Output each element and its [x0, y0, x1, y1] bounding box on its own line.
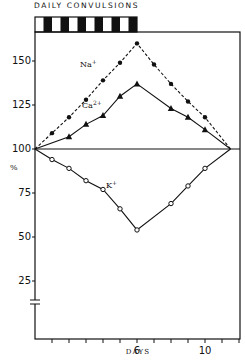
y-tick-label: 75 [18, 187, 31, 198]
marker-ca2- [185, 114, 191, 120]
convulsion-bar-segment [78, 17, 87, 32]
marker-na- [101, 78, 105, 82]
marker-ca2- [168, 105, 174, 111]
marker-k- [101, 187, 105, 191]
y-tick-label: 150 [12, 55, 31, 66]
marker-ca2- [83, 121, 89, 127]
marker-k- [186, 184, 190, 188]
marker-na- [169, 82, 173, 86]
marker-k- [203, 166, 207, 170]
series-label-na-: Na+ [80, 58, 97, 69]
marker-na- [203, 115, 207, 119]
marker-k- [50, 157, 54, 161]
convulsion-bar-segment [61, 17, 70, 32]
y-tick-label: 125 [12, 99, 31, 110]
ion-concentration-chart: 150125100755025%610DAYSNa+Ca2+K+ [0, 0, 245, 360]
y-tick-label: 25 [18, 275, 31, 286]
marker-na- [152, 62, 156, 66]
marker-k- [169, 201, 173, 205]
marker-na- [67, 115, 71, 119]
convulsion-bar-segment [129, 17, 138, 32]
series-line-na- [35, 43, 231, 149]
marker-na- [50, 131, 54, 135]
marker-na- [186, 99, 190, 103]
y-tick-label: 100 [12, 143, 31, 154]
series-line-k- [35, 149, 231, 230]
axis-break-gap [31, 300, 39, 304]
marker-k- [67, 166, 71, 170]
y-tick-label: 50 [18, 231, 31, 242]
marker-ca2- [66, 133, 72, 139]
x-tick-label: 10 [199, 345, 212, 356]
x-axis-label: DAYS [126, 348, 151, 356]
marker-ca2- [134, 80, 140, 86]
marker-na- [118, 61, 122, 65]
convulsion-bar-segment [44, 17, 53, 32]
series-line-ca2- [35, 84, 231, 149]
marker-na- [135, 41, 139, 45]
convulsion-bar-segment [112, 17, 121, 32]
series-label-ca2-: Ca2+ [82, 99, 102, 110]
convulsion-bar-segment [95, 17, 104, 32]
marker-k- [135, 228, 139, 232]
marker-ca2- [117, 93, 123, 99]
plot-frame [35, 32, 240, 339]
marker-k- [84, 178, 88, 182]
y-axis-label: % [10, 163, 18, 172]
series-label-k-: K+ [106, 179, 117, 190]
marker-k- [118, 207, 122, 211]
marker-ca2- [202, 126, 208, 132]
